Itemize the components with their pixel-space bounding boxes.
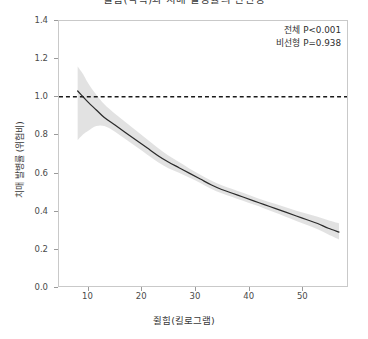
series-group: [78, 91, 339, 232]
y-axis-title: 치매 발병률 (위험비): [13, 105, 26, 215]
chart-title: 쥘힘(악력)과 치매 발병률의 연관성: [0, 0, 368, 6]
y-tick-label: 0.4: [4, 206, 48, 216]
y-tick-mark: [54, 58, 58, 59]
y-tick-mark: [54, 249, 58, 250]
y-tick-mark: [54, 96, 58, 97]
x-tick-label: 40: [243, 291, 254, 301]
annotation-overall-p: 전체 P<0.001: [276, 24, 341, 37]
x-tick-label: 10: [82, 291, 93, 301]
y-tick-label: 0.6: [4, 168, 48, 178]
y-tick-label: 0.2: [4, 244, 48, 254]
plot-area: 전체 P<0.001 비선형 P=0.938: [58, 20, 348, 287]
y-tick-label: 1.4: [4, 15, 48, 25]
hazard-ratio-curve: [78, 91, 339, 232]
annotation-nonlinear-p: 비선형 P=0.938: [276, 37, 341, 50]
y-tick-label: 0.8: [4, 129, 48, 139]
x-tick-mark: [249, 287, 250, 291]
statistics-annotations: 전체 P<0.001 비선형 P=0.938: [276, 24, 341, 50]
x-tick-label: 20: [136, 291, 147, 301]
x-tick-mark: [302, 287, 303, 291]
x-tick-label: 30: [190, 291, 201, 301]
figure-container: 쥘힘(악력)과 치매 발병률의 연관성 전체 P<0.001 비선형 P=0.9…: [0, 0, 368, 339]
confidence-band: [78, 66, 339, 239]
y-tick-label: 0.0: [4, 282, 48, 292]
y-tick-mark: [54, 134, 58, 135]
x-tick-mark: [88, 287, 89, 291]
y-tick-mark: [54, 20, 58, 21]
y-tick-mark: [54, 287, 58, 288]
y-tick-label: 1.0: [4, 91, 48, 101]
y-tick-mark: [54, 173, 58, 174]
plot-svg: [59, 21, 347, 286]
x-tick-mark: [195, 287, 196, 291]
confidence-band-group: [78, 66, 339, 239]
y-tick-label: 1.2: [4, 53, 48, 63]
y-tick-mark: [54, 211, 58, 212]
x-tick-label: 50: [297, 291, 308, 301]
x-axis-title: 쥘힘(킬로그램): [0, 313, 368, 327]
x-tick-mark: [141, 287, 142, 291]
